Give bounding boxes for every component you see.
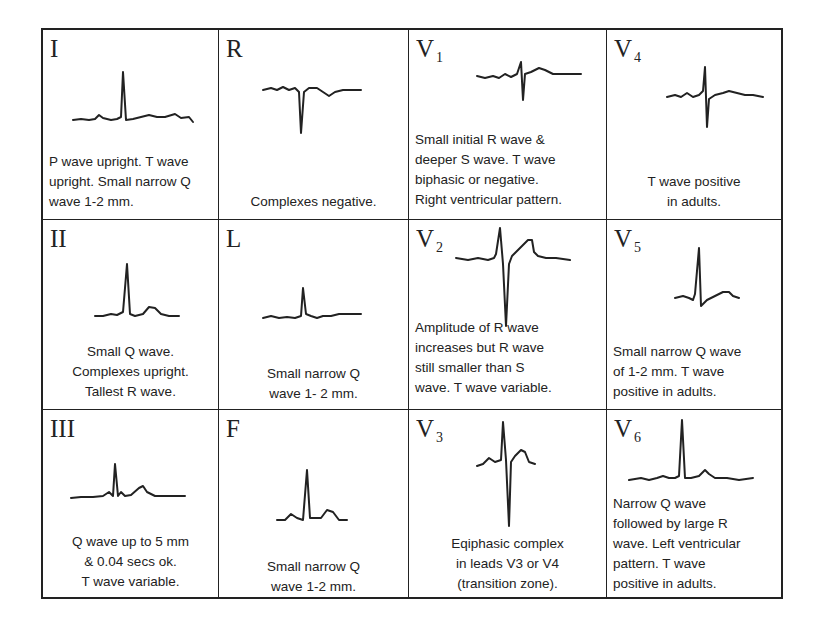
ecg-waveform-icon — [261, 286, 366, 326]
ecg-waveform-icon — [93, 262, 185, 324]
lead-label: V2 — [416, 226, 443, 255]
lead-label: III — [50, 416, 75, 441]
cell-lead-l: L Small narrow Q wave 1- 2 mm. — [219, 220, 409, 410]
cell-lead-f: F Small narrow Q wave 1-2 mm. — [219, 410, 409, 597]
cell-lead-ii: II Small Q wave. Complexes upright. Tall… — [43, 220, 219, 410]
ecg-lead-grid: I P wave upright. T wave upright. Small … — [41, 28, 783, 599]
lead-description: Small narrow Q wave 1-2 mm. — [225, 557, 402, 597]
cell-lead-i: I P wave upright. T wave upright. Small … — [43, 30, 219, 220]
lead-label: II — [50, 226, 67, 251]
cell-lead-r: R Complexes negative. — [219, 30, 409, 220]
ecg-waveform-icon — [475, 420, 543, 532]
lead-description: Eqiphasic complex in leads V3 or V4 (tra… — [415, 534, 600, 594]
lead-label: F — [226, 416, 240, 441]
cell-lead-v3: V3 Eqiphasic complex in leads V3 or V4 (… — [409, 410, 607, 597]
lead-description: Narrow Q wave followed by large R wave. … — [613, 494, 775, 594]
ecg-waveform-icon — [673, 246, 743, 316]
cell-lead-v6: V6 Narrow Q wave followed by large R wav… — [607, 410, 781, 597]
lead-description: Complexes negative. — [225, 192, 402, 212]
lead-description: P wave upright. T wave upright. Small na… — [49, 152, 212, 212]
ecg-waveform-icon — [261, 78, 371, 138]
cell-lead-v4: V4 T wave positive in adults. — [607, 30, 781, 220]
cell-lead-iii: III Q wave up to 5 mm & 0.04 secs ok. T … — [43, 410, 219, 597]
ecg-waveform-icon — [71, 70, 201, 130]
lead-description: Small Q wave. Complexes upright. Tallest… — [49, 342, 212, 402]
lead-label: I — [50, 36, 58, 61]
lead-label: R — [226, 36, 243, 61]
cell-lead-v2: V2 Amplitude of R wave increases but R w… — [409, 220, 607, 410]
lead-label: V1 — [416, 36, 443, 65]
ecg-waveform-icon — [275, 468, 355, 530]
cell-lead-v5: V5 Small narrow Q wave of 1-2 mm. T wave… — [607, 220, 781, 410]
ecg-waveform-icon — [665, 65, 770, 135]
lead-description: Amplitude of R wave increases but R wave… — [415, 318, 600, 398]
lead-label: V4 — [614, 36, 641, 65]
lead-description: Q wave up to 5 mm & 0.04 secs ok. T wave… — [49, 532, 212, 592]
lead-description: Small narrow Q wave of 1-2 mm. T wave po… — [613, 342, 775, 402]
lead-description: T wave positive in adults. — [613, 172, 775, 212]
lead-description: Small initial R wave & deeper S wave. T … — [415, 130, 600, 210]
ecg-waveform-icon — [69, 460, 194, 506]
lead-label: L — [226, 226, 241, 251]
cell-lead-v1: V1 Small initial R wave & deeper S wave.… — [409, 30, 607, 220]
ecg-waveform-icon — [627, 418, 762, 484]
lead-label: V3 — [416, 416, 443, 445]
lead-label: V5 — [614, 226, 641, 255]
ecg-waveform-icon — [475, 60, 587, 110]
lead-description: Small narrow Q wave 1- 2 mm. — [225, 364, 402, 404]
